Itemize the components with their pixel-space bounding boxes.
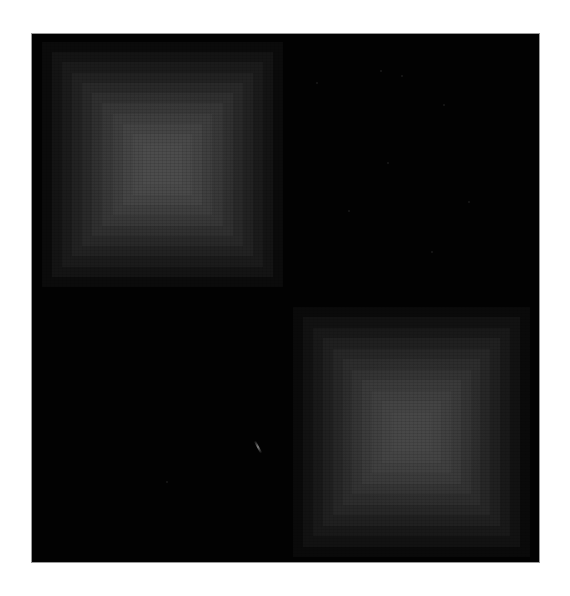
artwork-canvas bbox=[31, 33, 540, 563]
center-glow bbox=[293, 307, 530, 557]
dust-speck bbox=[443, 104, 445, 106]
dust-speck bbox=[380, 70, 382, 72]
bottom-right-gradient-square bbox=[293, 307, 530, 557]
dust-speck bbox=[166, 481, 168, 483]
center-glow bbox=[42, 42, 283, 287]
dust-speck bbox=[431, 251, 433, 253]
top-left-gradient-square bbox=[42, 42, 283, 287]
dust-speck bbox=[348, 210, 350, 212]
dust-speck bbox=[316, 82, 318, 84]
dust-speck bbox=[387, 162, 389, 164]
dust-speck bbox=[468, 201, 470, 203]
dust-speck bbox=[401, 75, 403, 77]
